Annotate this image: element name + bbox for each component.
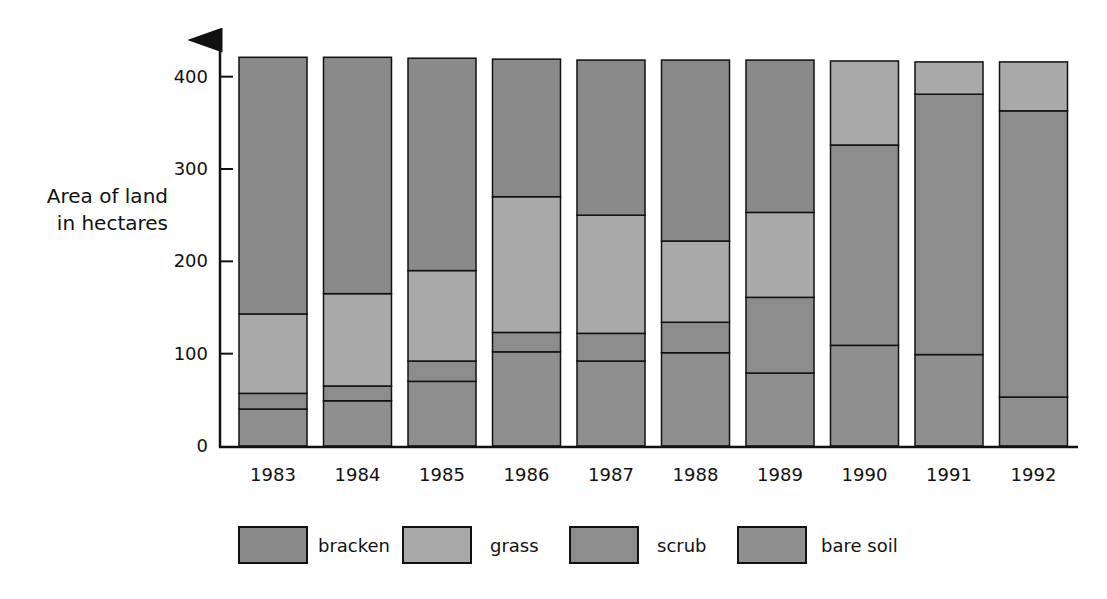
bar-1983 — [239, 57, 307, 446]
segment-bracken — [746, 60, 814, 212]
bar-1992 — [1000, 62, 1068, 446]
x-tick-label: 1983 — [239, 464, 307, 485]
segment-bare-soil — [239, 409, 307, 446]
bars-group — [239, 57, 1068, 446]
x-tick-label: 1985 — [408, 464, 476, 485]
segment-grass — [408, 271, 476, 361]
segment-scrub — [1000, 111, 1068, 397]
legend-label-bare-soil: bare soil — [821, 535, 898, 556]
segment-grass — [746, 212, 814, 297]
stacked-bar-chart — [0, 0, 1107, 599]
segment-grass — [577, 215, 645, 333]
legend-swatch-bare-soil — [737, 526, 807, 564]
legend-label-bracken: bracken — [318, 535, 390, 556]
y-tick-label: 400 — [168, 66, 208, 87]
segment-scrub — [577, 333, 645, 361]
legend-swatch-bracken — [238, 526, 308, 564]
x-tick-label: 1987 — [577, 464, 645, 485]
y-ticks — [221, 77, 233, 354]
bar-1988 — [662, 60, 730, 446]
segment-scrub — [324, 386, 392, 401]
legend: bracken grass scrub bare soil — [0, 526, 1107, 566]
segment-grass — [1000, 62, 1068, 111]
segment-bare-soil — [324, 401, 392, 446]
y-tick-label: 200 — [168, 250, 208, 271]
bar-1990 — [831, 61, 899, 446]
segment-bracken — [408, 58, 476, 270]
y-tick-label: 300 — [168, 158, 208, 179]
y-axis-label: Area of land in hectares — [20, 183, 168, 237]
segment-bare-soil — [408, 381, 476, 446]
y-tick-label: 100 — [168, 343, 208, 364]
bar-1989 — [746, 60, 814, 446]
bar-1987 — [577, 60, 645, 446]
legend-label-scrub: scrub — [657, 535, 707, 556]
segment-grass — [324, 294, 392, 386]
segment-bare-soil — [746, 373, 814, 446]
legend-swatch-scrub — [569, 526, 639, 564]
segment-bracken — [662, 60, 730, 241]
legend-label-grass: grass — [490, 535, 539, 556]
y-tick-label: 0 — [168, 435, 208, 456]
segment-scrub — [746, 297, 814, 373]
segment-grass — [915, 62, 983, 94]
segment-scrub — [915, 94, 983, 354]
segment-scrub — [408, 361, 476, 381]
legend-swatch-grass — [402, 526, 472, 564]
bar-1985 — [408, 58, 476, 446]
x-tick-label: 1988 — [662, 464, 730, 485]
segment-grass — [493, 197, 561, 333]
segment-scrub — [831, 145, 899, 345]
segment-bare-soil — [915, 355, 983, 446]
segment-scrub — [239, 393, 307, 409]
segment-bare-soil — [662, 353, 730, 446]
segment-bare-soil — [1000, 397, 1068, 446]
legend-item-scrub: scrub — [569, 526, 707, 564]
segment-scrub — [493, 332, 561, 351]
bar-1984 — [324, 57, 392, 446]
segment-bare-soil — [577, 361, 645, 446]
legend-item-grass: grass — [402, 526, 539, 564]
x-tick-label: 1989 — [746, 464, 814, 485]
legend-item-bracken: bracken — [238, 526, 390, 564]
segment-bare-soil — [493, 352, 561, 446]
segment-grass — [662, 241, 730, 322]
y-axis-label-line-1: Area of land — [20, 183, 168, 210]
legend-item-bare-soil: bare soil — [737, 526, 898, 564]
x-tick-label: 1991 — [915, 464, 983, 485]
y-axis-label-line-2: in hectares — [20, 210, 168, 237]
segment-grass — [831, 61, 899, 145]
bar-1986 — [493, 59, 561, 446]
segment-bracken — [239, 57, 307, 314]
segment-bracken — [493, 59, 561, 197]
x-tick-label: 1990 — [831, 464, 899, 485]
segment-bracken — [324, 57, 392, 293]
segment-grass — [239, 314, 307, 393]
segment-bracken — [577, 60, 645, 215]
segment-bare-soil — [831, 345, 899, 446]
x-tick-label: 1984 — [324, 464, 392, 485]
bar-1991 — [915, 62, 983, 446]
x-tick-label: 1986 — [493, 464, 561, 485]
segment-scrub — [662, 322, 730, 352]
x-tick-label: 1992 — [1000, 464, 1068, 485]
